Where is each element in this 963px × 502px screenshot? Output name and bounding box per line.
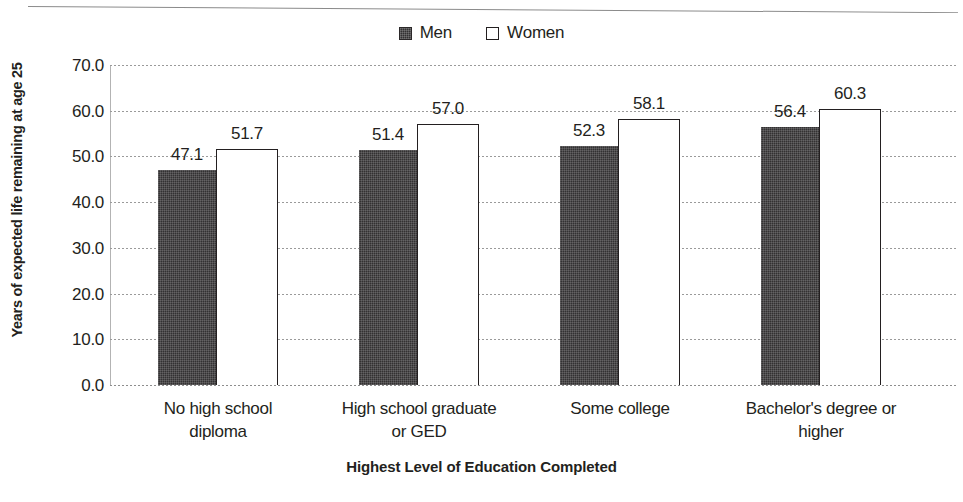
x-axis-category-label: Bachelor's degree orhigher: [711, 398, 931, 444]
x-axis-category-labels: No high schooldiplomaHigh school graduat…: [110, 398, 958, 456]
legend-label-women: Women: [507, 23, 564, 43]
scan-artifact-line: [28, 2, 958, 13]
x-axis-category-label-line: diploma: [108, 421, 328, 444]
chart-legend: Men Women: [0, 20, 963, 46]
legend-swatch-women-icon: [486, 27, 499, 40]
y-axis-line: [110, 65, 111, 385]
legend-swatch-men-icon: [399, 27, 412, 40]
bar-men: [761, 127, 819, 385]
bar-women: [216, 149, 278, 385]
gridline: [110, 65, 958, 66]
legend-label-men: Men: [420, 23, 452, 43]
y-axis-tick-label: 50.0: [44, 148, 104, 165]
y-axis-title: Years of expected life remaining at age …: [0, 0, 34, 400]
bar-women: [618, 119, 680, 385]
y-axis-tick-labels: 70.060.050.040.030.020.010.00.0: [44, 55, 104, 385]
x-axis-category-label-line: Some college: [510, 398, 730, 421]
x-axis-category-label: No high schooldiploma: [108, 398, 328, 444]
y-axis-tick-label: 60.0: [44, 102, 104, 119]
y-axis-tick-label: 70.0: [44, 57, 104, 74]
y-axis-tick-label: 30.0: [44, 239, 104, 256]
bar-men: [359, 150, 417, 385]
x-axis-title: Highest Level of Education Completed: [0, 458, 963, 475]
x-axis-category-label-line: No high school: [108, 398, 328, 421]
y-axis-tick-label: 0.0: [44, 377, 104, 394]
x-axis-category-label: Some college: [510, 398, 730, 421]
bar-women: [417, 124, 479, 385]
plot-area: 47.151.751.457.052.358.156.460.3: [110, 65, 958, 385]
bar-value-label: 57.0: [403, 100, 493, 117]
bar-women: [819, 109, 881, 385]
legend-item-women: Women: [486, 23, 564, 43]
y-axis-tick-label: 40.0: [44, 194, 104, 211]
x-axis-category-label: High school graduateor GED: [309, 398, 529, 444]
y-axis-tick-label: 20.0: [44, 285, 104, 302]
gridline: [110, 385, 958, 386]
y-axis-title-text: Years of expected life remaining at age …: [9, 62, 25, 337]
x-axis-category-label-line: High school graduate: [309, 398, 529, 421]
y-axis-tick-label: 10.0: [44, 331, 104, 348]
legend-item-men: Men: [399, 23, 452, 43]
bar-men: [560, 146, 618, 385]
x-axis-category-label-line: Bachelor's degree or: [711, 398, 931, 421]
x-axis-category-label-line: higher: [711, 421, 931, 444]
bar-value-label: 51.7: [202, 125, 292, 142]
bar-value-label: 58.1: [604, 95, 694, 112]
x-axis-category-label-line: or GED: [309, 421, 529, 444]
bar-value-label: 60.3: [805, 85, 895, 102]
bar-men: [158, 170, 216, 385]
